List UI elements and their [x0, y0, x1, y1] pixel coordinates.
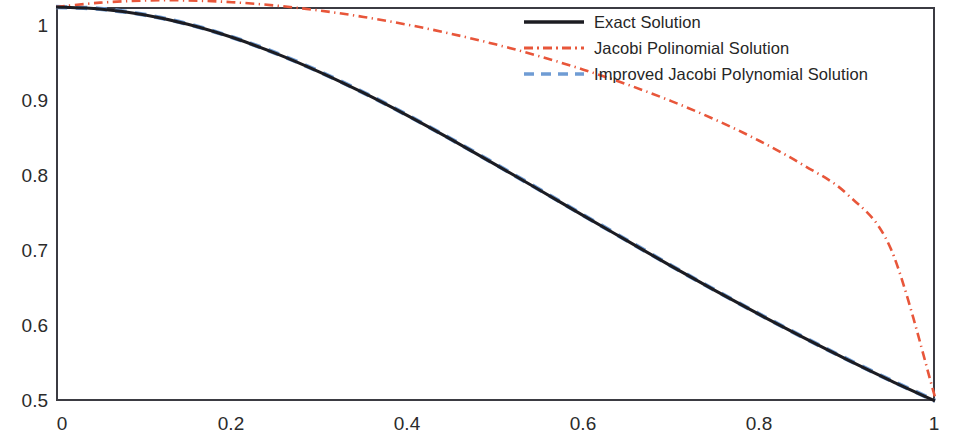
legend: Exact Solution Jacobi Polinomial Solutio…	[523, 9, 923, 87]
x-tick-label: 0.8	[729, 414, 789, 433]
dashed-line-swatch	[523, 67, 585, 81]
legend-item-improved-jacobi-polynomial-solution: Improved Jacobi Polynomial Solution	[523, 61, 923, 87]
x-tick-label: 0	[32, 414, 92, 433]
y-tick-label: 1	[2, 16, 48, 35]
legend-label: Jacobi Polinomial Solution	[594, 39, 789, 58]
legend-label: Improved Jacobi Polynomial Solution	[594, 65, 868, 84]
legend-item-jacobi-polinomial-solution: Jacobi Polinomial Solution	[523, 35, 923, 61]
x-tick-label: 0.4	[377, 414, 437, 433]
line-chart: 1 0.9 0.8 0.7 0.6 0.5 0 0.2 0.4 0.6 0.8 …	[0, 0, 956, 441]
legend-label: Exact Solution	[594, 13, 701, 32]
dashdot-line-swatch	[523, 41, 585, 55]
x-tick-label: 0.6	[553, 414, 613, 433]
y-tick-label: 0.5	[2, 391, 48, 410]
y-tick-label: 0.9	[2, 91, 48, 110]
y-tick-label: 0.6	[2, 316, 48, 335]
x-tick-label: 1	[904, 414, 956, 433]
solid-line-swatch	[523, 15, 585, 29]
y-tick-label: 0.8	[2, 166, 48, 185]
x-tick-label: 0.2	[201, 414, 261, 433]
legend-item-exact-solution: Exact Solution	[523, 9, 923, 35]
y-tick-label: 0.7	[2, 241, 48, 260]
